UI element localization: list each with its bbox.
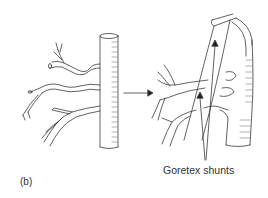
left-middle-branch [23,84,100,120]
right-lower-trunk [220,40,253,147]
goretex-shunts-label: Goretex shunts [163,164,234,176]
left-lower-branch [42,106,100,146]
arrow-right-icon [124,90,153,96]
left-upper-branch [49,43,101,75]
right-branches [152,65,208,146]
right-main-vessel [184,14,252,140]
left-main-vessel [100,34,118,149]
panel-label: (b) [20,176,32,187]
goretex-shunts [204,72,236,111]
label-pointer-lines [197,40,218,160]
